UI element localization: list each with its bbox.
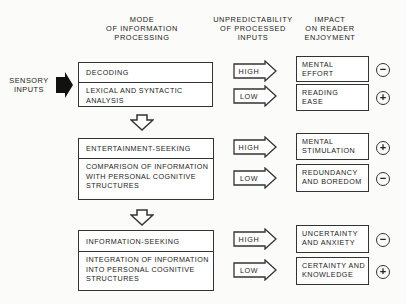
level-arrow-low-3: LOW <box>233 259 277 281</box>
stage-decoding-box: DECODING LEXICAL AND SYNTACTIC ANALYSIS <box>78 62 213 107</box>
impact-mental-stimulation: MENTAL STIMULATION <box>296 133 369 160</box>
level-label: HIGH <box>238 143 259 152</box>
stage-title: INFORMATION-SEEKING <box>79 231 213 252</box>
level-label: LOW <box>240 266 258 275</box>
minus-sign-icon: − <box>376 233 390 247</box>
stage-description: COMPARISON OF INFORMATION WITH PERSONAL … <box>79 159 213 194</box>
impact-uncertainty-anxiety: UNCERTAINTY AND ANXIETY <box>296 225 369 253</box>
stage-information-box: INFORMATION-SEEKING INTEGRATION OF INFOR… <box>78 230 214 291</box>
impact-certainty-knowledge: CERTAINTY AND KNOWLEDGE <box>296 257 369 285</box>
level-arrow-high-1: HIGH <box>233 60 277 82</box>
level-arrow-high-2: HIGH <box>233 136 277 158</box>
plus-sign-icon: + <box>376 141 390 155</box>
plus-sign-icon: + <box>376 91 390 105</box>
down-arrow-icon <box>130 114 154 131</box>
level-arrow-high-3: HIGH <box>233 228 277 250</box>
level-arrow-low-2: LOW <box>233 167 277 189</box>
header-impact: IMPACT ON READER ENJOYMENT <box>298 15 362 42</box>
minus-sign-icon: − <box>376 63 390 77</box>
stage-title: ENTERTAINMENT-SEEKING <box>79 139 213 159</box>
level-label: LOW <box>240 174 258 183</box>
header-unpredictability: UNPREDICTABILITY OF PROCESSED INPUTS <box>205 15 301 42</box>
impact-reading-ease: READING EASE <box>296 84 369 111</box>
stage-entertainment-box: ENTERTAINMENT-SEEKING COMPARISON OF INFO… <box>78 138 214 200</box>
level-label: HIGH <box>238 235 259 244</box>
level-label: HIGH <box>238 67 259 76</box>
stage-description: LEXICAL AND SYNTACTIC ANALYSIS <box>79 83 212 108</box>
sensory-inputs-arrow-icon <box>56 72 74 98</box>
impact-redundancy-boredom: REDUNDANCY AND BOREDOM <box>296 164 369 192</box>
down-arrow-icon <box>130 209 154 226</box>
plus-sign-icon: + <box>376 265 390 279</box>
level-label: LOW <box>240 92 258 101</box>
stage-description: INTEGRATION OF INFORMATION INTO PERSONAL… <box>79 252 213 287</box>
stage-title: DECODING <box>79 63 212 83</box>
level-arrow-low-1: LOW <box>233 85 277 107</box>
header-mode: MODE OF INFORMATION PROCESSING <box>92 15 192 42</box>
sensory-inputs-label: SENSORY INPUTS <box>2 76 56 94</box>
impact-mental-effort: MENTAL EFFORT <box>296 56 369 82</box>
minus-sign-icon: − <box>376 172 390 186</box>
